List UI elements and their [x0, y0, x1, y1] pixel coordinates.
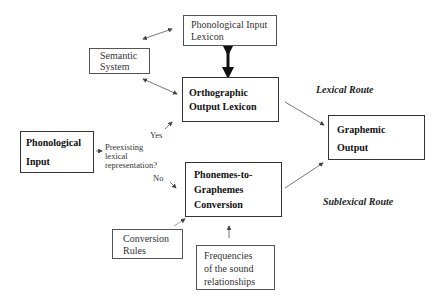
arrow-semantic-phon-lexicon — [143, 29, 172, 39]
arrow-orthographic-graphemic — [285, 102, 324, 125]
node-conversion-rules: Conversion Rules — [112, 229, 183, 259]
label-sublexical-route: Sublexical Route — [323, 196, 393, 207]
node-label: Phonological — [26, 137, 81, 148]
node-graphemic-output: Graphemic Output — [328, 115, 425, 160]
node-label: Phonemes-to- — [194, 169, 252, 180]
node-semantic-system: Semantic System — [89, 48, 150, 74]
node-label: Graphemes — [194, 184, 243, 195]
arrow-semantic-orthographic — [143, 79, 177, 94]
node-label: Output Lexicon — [189, 101, 257, 112]
arrow-rules-phonemes — [174, 219, 185, 226]
node-phonological-input-lexicon: Phonological Input Lexicon — [183, 15, 277, 46]
node-label: Conversion — [194, 199, 243, 210]
decision-question: representation? — [105, 160, 157, 170]
node-label: Graphemic — [337, 124, 385, 135]
node-label: Orthographic — [189, 87, 248, 98]
node-phonemes-to-graphemes: Phonemes-to- Graphemes Conversion — [185, 162, 282, 217]
arrow-phonemes-graphemic — [285, 163, 323, 188]
node-frequencies: Frequencies of the sound relationships — [196, 245, 275, 290]
node-label: Input — [26, 156, 50, 167]
node-label: Rules — [123, 244, 146, 257]
node-label: Frequencies — [204, 249, 252, 262]
label-lexical-route: Lexical Route — [316, 84, 374, 95]
node-label: Lexicon — [191, 30, 224, 43]
node-label: relationships — [204, 275, 255, 288]
arrow-no-phonemes — [170, 182, 176, 188]
node-phonological-input: Phonological Input — [20, 131, 94, 173]
node-orthographic-output-lexicon: Orthographic Output Lexicon — [182, 77, 279, 122]
node-label: of the sound — [204, 262, 253, 275]
label-yes: Yes — [150, 130, 162, 140]
node-label: System — [100, 60, 129, 73]
label-no: No — [153, 173, 163, 183]
node-label: Output — [337, 142, 368, 153]
arrow-yes-orthographic — [165, 122, 172, 129]
